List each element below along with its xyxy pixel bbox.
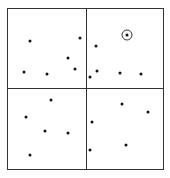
data-point bbox=[44, 130, 47, 133]
data-point bbox=[67, 57, 70, 60]
data-point bbox=[89, 149, 92, 152]
data-point bbox=[89, 76, 92, 79]
quadrant-diagram bbox=[0, 0, 170, 178]
data-point bbox=[79, 37, 82, 40]
data-point bbox=[147, 111, 150, 114]
data-point bbox=[121, 103, 124, 106]
data-point bbox=[91, 121, 94, 124]
data-point bbox=[119, 72, 122, 75]
data-point bbox=[29, 40, 32, 43]
data-point bbox=[67, 132, 70, 135]
data-point bbox=[95, 45, 98, 48]
data-point bbox=[29, 154, 32, 157]
data-point bbox=[50, 99, 53, 102]
data-point bbox=[46, 73, 49, 76]
data-point bbox=[74, 68, 77, 71]
data-point bbox=[23, 71, 26, 74]
data-point bbox=[126, 34, 129, 37]
data-point bbox=[25, 116, 28, 119]
data-point bbox=[140, 73, 143, 76]
data-point bbox=[96, 70, 99, 73]
data-point bbox=[125, 144, 128, 147]
